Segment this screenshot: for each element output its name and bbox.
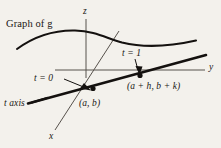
graph-of-g-label: Graph of g (6, 19, 53, 30)
graph-of-g-curve (17, 30, 196, 49)
point-ab-label: (a, b) (79, 99, 100, 109)
t-axis-line (28, 55, 206, 104)
t-equals-zero-label: t = 0 (34, 74, 53, 84)
t-equals-one-label: t = 1 (122, 49, 141, 59)
figure-canvas: Graph of g z y x t = 1 t = 0 t axis (a, … (0, 0, 221, 148)
y-axis-label: y (209, 63, 213, 73)
t-axis-label: t axis (4, 99, 25, 109)
point-ahbk-marker (137, 73, 142, 78)
point-ahbk-label: (a + h, b + k) (127, 82, 180, 92)
point-ab-marker (90, 86, 95, 91)
x-axis-label: x (49, 132, 53, 142)
t-axis-label-text: t axis (4, 98, 25, 108)
z-axis-label: z (83, 7, 87, 17)
